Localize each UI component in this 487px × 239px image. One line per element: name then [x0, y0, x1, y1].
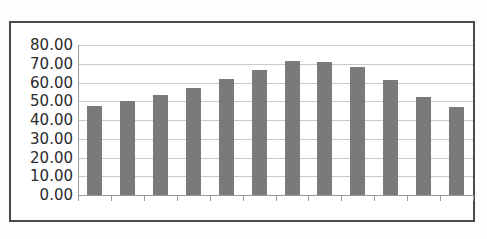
chart-screenshot: 0.0010.0020.0030.0040.0050.0060.0070.008…	[0, 0, 487, 239]
chart-frame: 0.0010.0020.0030.0040.0050.0060.0070.008…	[9, 21, 475, 222]
x-axis-tick	[111, 195, 112, 201]
bar	[350, 67, 365, 195]
y-axis-tick-label: 40.00	[30, 113, 73, 128]
bar-slot	[111, 23, 144, 220]
chart-plot-wrapper: 0.0010.0020.0030.0040.0050.0060.0070.008…	[11, 23, 473, 220]
bar	[120, 101, 135, 196]
y-axis-tick-labels: 0.0010.0020.0030.0040.0050.0060.0070.008…	[11, 23, 77, 220]
bar	[252, 70, 267, 195]
plot-area	[78, 23, 473, 220]
y-axis-tick-label: 10.00	[30, 169, 73, 184]
bar	[416, 97, 431, 195]
bar	[285, 61, 300, 195]
bar-series	[78, 23, 473, 220]
x-axis-tick	[473, 195, 474, 201]
y-axis-tick-label: 0.00	[40, 188, 73, 203]
bar-slot	[144, 23, 177, 220]
x-axis-tick	[407, 195, 408, 201]
bar-slot	[341, 23, 374, 220]
bar-slot	[78, 23, 111, 220]
x-axis-tick	[341, 195, 342, 201]
bar	[153, 95, 168, 195]
bar-slot	[440, 23, 473, 220]
bar-slot	[308, 23, 341, 220]
bar	[383, 80, 398, 195]
x-axis-tick	[440, 195, 441, 201]
x-axis-tick	[144, 195, 145, 201]
x-axis-tick	[374, 195, 375, 201]
bar	[449, 107, 464, 195]
bar	[186, 88, 201, 195]
bar-slot	[210, 23, 243, 220]
x-axis-tick	[78, 195, 79, 201]
bar-slot	[177, 23, 210, 220]
y-axis-tick-label: 50.00	[30, 94, 73, 109]
bar	[317, 62, 332, 195]
bar-slot	[276, 23, 309, 220]
x-axis-tick	[243, 195, 244, 201]
y-axis-tick-label: 80.00	[30, 38, 73, 53]
bar-slot	[407, 23, 440, 220]
x-axis-tick	[308, 195, 309, 201]
x-axis-tick	[177, 195, 178, 201]
x-axis-tick	[210, 195, 211, 201]
bar-slot	[243, 23, 276, 220]
y-axis-tick-label: 60.00	[30, 75, 73, 90]
bar	[219, 79, 234, 195]
bar-slot	[374, 23, 407, 220]
y-axis-tick-label: 20.00	[30, 150, 73, 165]
y-axis-tick-label: 30.00	[30, 131, 73, 146]
y-axis-tick-label: 70.00	[30, 56, 73, 71]
x-axis-tick	[276, 195, 277, 201]
bar	[87, 106, 102, 195]
